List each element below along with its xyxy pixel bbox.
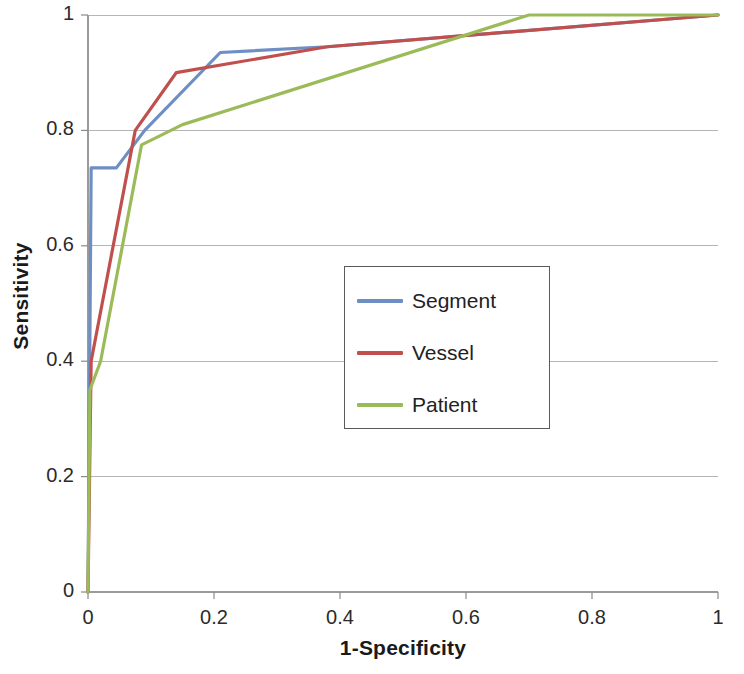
chart-legend: SegmentVesselPatient [344, 266, 550, 429]
legend-label: Vessel [412, 341, 474, 365]
legend-color-swatch [357, 403, 403, 407]
x-tick-label: 0.4 [310, 606, 370, 629]
legend-item: Vessel [357, 341, 474, 365]
x-axis-title-container: 1-Specificity [88, 636, 718, 660]
y-axis-title-container: Sensitivity [6, 0, 36, 592]
legend-item: Patient [357, 393, 477, 417]
legend-item: Segment [357, 289, 496, 313]
x-axis-title: 1-Specificity [340, 636, 466, 659]
x-tick-label: 1 [688, 606, 744, 629]
x-tick-label: 0.8 [562, 606, 622, 629]
y-axis-title: Sensitivity [9, 242, 33, 349]
legend-color-swatch [357, 351, 403, 355]
legend-label: Patient [412, 393, 477, 417]
roc-curve-chart: 00.20.40.60.81 00.20.40.60.81 Sensitivit… [0, 0, 744, 674]
x-tick-label: 0 [58, 606, 118, 629]
legend-label: Segment [412, 289, 496, 313]
x-tick-label: 0.6 [436, 606, 496, 629]
legend-color-swatch [357, 299, 403, 303]
x-tick-label: 0.2 [184, 606, 244, 629]
